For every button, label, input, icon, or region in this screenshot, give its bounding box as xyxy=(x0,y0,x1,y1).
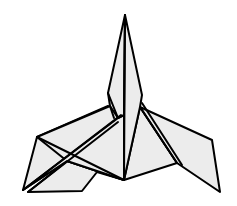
center-crease xyxy=(124,15,125,180)
origami-figure xyxy=(0,0,237,206)
origami-faces xyxy=(23,15,220,192)
origami-diagram xyxy=(0,0,237,206)
spike-left xyxy=(108,15,125,118)
